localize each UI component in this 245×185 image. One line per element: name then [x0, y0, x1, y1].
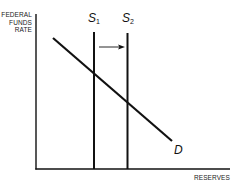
label-d: D: [174, 143, 183, 157]
shift-arrow: [99, 45, 125, 50]
label-s1-letter: S: [88, 11, 96, 25]
demand-curve: [53, 38, 172, 141]
diagram-canvas: [0, 0, 245, 185]
y-axis-label-line-3: RATE: [1, 26, 32, 34]
label-s2-letter: S: [122, 11, 130, 25]
label-s2: S2: [122, 11, 134, 25]
label-s2-subscript: 2: [130, 18, 134, 25]
label-s1-subscript: 1: [96, 18, 100, 25]
label-s1: S1: [88, 11, 100, 25]
y-axis-label-line-2: FUNDS: [1, 19, 32, 27]
x-axis-label: RESERVES: [194, 174, 230, 181]
y-axis-label-line-1: FEDERAL: [1, 11, 32, 19]
y-axis-label: FEDERAL FUNDS RATE: [1, 11, 32, 34]
